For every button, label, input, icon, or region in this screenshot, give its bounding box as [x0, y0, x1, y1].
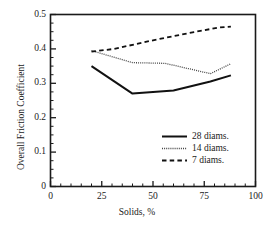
x-tick-label-1: 25 [97, 192, 107, 202]
y-tick-label-4: 0.4 [0, 44, 46, 54]
x-tick-label-3: 75 [200, 192, 210, 202]
legend-label-28-diams: 28 diams. [192, 132, 229, 142]
y-tick-label-5: 0.5 [0, 10, 46, 20]
series-line-14-diams [92, 51, 231, 74]
series-line-7-diams [92, 27, 231, 52]
data-series-group [92, 27, 231, 94]
chart-figure: 0 0.1 0.2 0.3 0.4 0.5 0 25 50 75 100 Ove… [0, 0, 274, 231]
legend-sample-lines [162, 137, 187, 161]
legend-label-7-diams: 7 diams. [192, 156, 224, 166]
y-axis-title: Overall Friction Coefficient [17, 64, 27, 170]
x-tick-label-4: 100 [248, 192, 262, 202]
x-tick-label-2: 50 [148, 192, 158, 202]
x-axis-title: Solids, % [119, 208, 155, 218]
series-line-28-diams [92, 66, 231, 94]
legend-label-14-diams: 14 diams. [192, 144, 229, 154]
x-tick-label-0: 0 [48, 192, 53, 202]
y-tick-label-0: 0 [0, 182, 46, 192]
